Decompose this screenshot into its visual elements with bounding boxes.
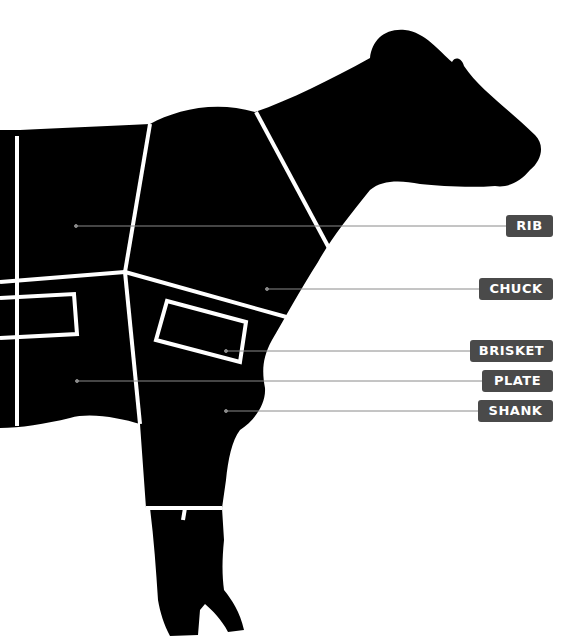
label-shank[interactable]: SHANK xyxy=(478,400,553,422)
label-chuck[interactable]: CHUCK xyxy=(479,278,553,300)
label-plate[interactable]: PLATE xyxy=(482,370,553,392)
label-rib[interactable]: RIB xyxy=(506,215,553,237)
cow-silhouette xyxy=(0,30,541,636)
leader-dot-plate xyxy=(76,380,79,383)
leader-dot-shank xyxy=(225,410,228,413)
leader-dot-brisket xyxy=(225,350,228,353)
cow-diagram xyxy=(0,0,577,639)
leader-dot-rib xyxy=(75,225,78,228)
leader-dot-chuck xyxy=(266,288,269,291)
label-brisket[interactable]: BRISKET xyxy=(470,340,553,362)
